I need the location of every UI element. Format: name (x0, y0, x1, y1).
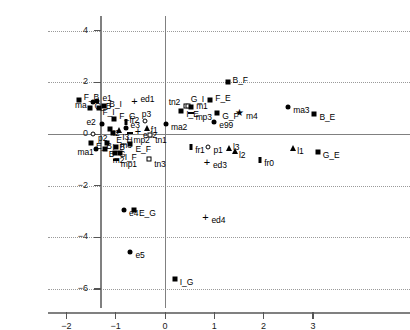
data-label-i-g: I_G (180, 277, 193, 287)
data-point-tn1 (148, 133, 153, 138)
data-point-l2 (232, 148, 238, 154)
plot-area: 420−2−4−6−2−10123F_Bmae1G_BF_IB_I+ed1F_G… (0, 0, 410, 330)
ytick-label--4: −4 (0, 231, 88, 241)
data-label-ed1: ed1 (140, 94, 154, 104)
ytick-label--6: −6 (0, 283, 88, 293)
gridline-y--4 (48, 237, 410, 238)
gridline-y--2 (48, 186, 410, 187)
data-label-e-f: E_F (135, 144, 150, 154)
ytick-label--2: −2 (0, 180, 88, 190)
data-point-fr2 (124, 119, 127, 125)
xtick-label-0: 0 (145, 321, 185, 330)
data-point-f-g (112, 116, 117, 121)
data-label-tn2: tn2 (169, 97, 181, 107)
data-point-g-e (315, 150, 320, 155)
data-point-ma1 (94, 147, 99, 152)
xtick-1 (214, 312, 215, 319)
data-point-e-h (111, 131, 116, 136)
data-point-g-b (87, 105, 92, 110)
axis-spine-bottom (48, 312, 410, 314)
scatter-plot-figure: 420−2−4−6−2−10123F_Bmae1G_BF_IB_I+ed1F_G… (0, 0, 410, 330)
data-point-b-i (102, 104, 107, 109)
data-point-tn3 (147, 157, 152, 162)
data-label-ma: ma (75, 100, 87, 110)
data-point-b-f (225, 80, 230, 85)
data-label-b-i: B_I (109, 99, 121, 109)
data-point-fr1 (190, 144, 193, 150)
data-label-mp3: mp3 (196, 112, 212, 122)
ytick-4 (94, 30, 101, 31)
data-label-tn1: tn1 (155, 135, 167, 145)
data-point-p2 (91, 132, 96, 137)
data-point-e3 (123, 126, 128, 131)
data-point-e5 (128, 249, 133, 254)
xtick-label-2: 2 (244, 321, 284, 330)
data-label-p3: p3 (142, 109, 151, 119)
data-label-ed3: ed3 (213, 160, 227, 170)
data-point-ed3: + (204, 160, 210, 165)
data-point-mp3 (188, 112, 194, 114)
data-point-ed2: + (135, 128, 141, 133)
data-point-i-f (117, 151, 122, 156)
data-label-b-e: B_E (319, 112, 335, 122)
data-point-b-g (102, 146, 107, 151)
data-label-ma2: ma2 (171, 122, 187, 132)
data-point-ma2 (163, 121, 168, 126)
xtick-label-1: 1 (194, 321, 234, 330)
ytick--6 (94, 288, 101, 289)
data-point-ma3 (286, 104, 291, 109)
xtick-label-3: 3 (293, 321, 333, 330)
data-point-ed4: + (202, 214, 208, 219)
data-label-e5: e5 (135, 250, 144, 260)
data-label-m3: m3 (120, 140, 132, 150)
data-label-l1: l1 (297, 146, 303, 156)
data-point-p3 (142, 119, 147, 124)
data-label-fr1: fr1 (195, 145, 205, 155)
ytick-label-4: 4 (0, 25, 88, 35)
data-label-p1: p1 (213, 145, 222, 155)
data-label-mp1: mp1 (121, 159, 137, 169)
data-point-p1 (206, 144, 211, 149)
xtick-3 (312, 312, 313, 319)
data-label-ma1: ma1 (77, 147, 93, 157)
data-point-e2 (100, 122, 105, 127)
ytick-label-0: 0 (0, 128, 88, 138)
ytick-2 (94, 82, 101, 83)
data-point-e4 (122, 208, 127, 213)
data-point-g-f (215, 110, 220, 115)
data-label-tn3: tn3 (154, 159, 166, 169)
data-point-m3 (114, 145, 119, 150)
xtick--1 (115, 312, 116, 319)
ytick--2 (94, 185, 101, 186)
gridline-y-4 (48, 31, 410, 32)
data-label-f-e: F_E (215, 93, 230, 103)
data-label-g-e: G_E (323, 150, 340, 160)
data-point-m4: ★ (235, 110, 244, 116)
data-point-l1 (290, 145, 296, 151)
xtick-label--2: −2 (46, 321, 86, 330)
data-point-f1 (144, 125, 150, 131)
data-point-i-g (172, 276, 177, 281)
data-label-b-f: B_F (233, 75, 248, 85)
xtick-label--1: −1 (96, 321, 136, 330)
xtick--2 (66, 312, 67, 319)
data-label-ed4: ed4 (211, 215, 225, 225)
data-label-e-g: E_G (139, 208, 156, 218)
data-point-b-e (312, 111, 317, 116)
data-point-e-g (131, 208, 136, 213)
axis-spine-left (100, 16, 102, 308)
data-label-fr0: fr0 (264, 158, 274, 168)
ytick--4 (94, 237, 101, 238)
data-point-mp1 (113, 159, 119, 161)
data-label-m4: m4 (246, 111, 258, 121)
data-point-i-b (105, 141, 110, 146)
data-point-i-e (179, 108, 184, 113)
data-point-mp2 (127, 132, 133, 134)
data-label-e2: e2 (86, 117, 95, 127)
xtick-0 (165, 312, 166, 319)
gridline-y--6 (48, 289, 410, 290)
data-point-fr0 (259, 157, 262, 163)
ytick-label-2: 2 (0, 76, 88, 86)
data-point-f-e (208, 97, 213, 102)
data-label-ma3: ma3 (293, 105, 309, 115)
